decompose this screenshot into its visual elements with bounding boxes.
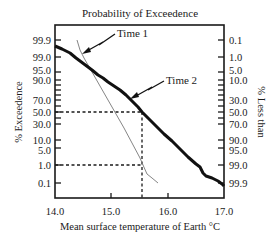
svg-text:99.0: 99.0 [229, 160, 247, 171]
x-tick-labels: 14.0 15.0 16.0 17.0 [46, 206, 233, 217]
svg-text:30.0: 30.0 [33, 119, 51, 130]
svg-text:10.0: 10.0 [229, 75, 247, 86]
svg-text:15.0: 15.0 [102, 206, 120, 217]
svg-text:99.9: 99.9 [229, 178, 247, 189]
time1-annotation-arrow [82, 34, 115, 54]
right-y-axis-label: % Less than [256, 86, 267, 138]
svg-text:0.1: 0.1 [38, 178, 51, 189]
svg-text:14.0: 14.0 [46, 206, 64, 217]
reference-lines [55, 112, 142, 198]
right-y-tick-labels: 0.1 1.0 5.0 10.0 30.0 50.0 70.0 90.0 95.… [229, 35, 247, 189]
svg-text:17.0: 17.0 [215, 206, 233, 217]
svg-text:99.0: 99.0 [33, 52, 51, 63]
svg-text:1.0: 1.0 [38, 160, 51, 171]
svg-text:0.1: 0.1 [229, 35, 242, 46]
svg-text:70.0: 70.0 [33, 95, 51, 106]
time2-label: Time 2 [166, 74, 197, 86]
time1-label: Time 1 [117, 27, 148, 39]
exceedence-chart: Probability of Exceedence [0, 0, 272, 245]
svg-text:90.0: 90.0 [33, 75, 51, 86]
svg-text:30.0: 30.0 [229, 95, 247, 106]
svg-text:50.0: 50.0 [229, 107, 247, 118]
svg-text:70.0: 70.0 [229, 119, 247, 130]
time2-annotation-arrow [130, 81, 164, 99]
svg-text:16.0: 16.0 [159, 206, 177, 217]
chart-title: Probability of Exceedence [82, 7, 198, 19]
left-y-axis-label: % Exceedence [13, 81, 24, 143]
left-y-tick-labels: 99.9 99.0 95.0 90.0 70.0 50.0 30.0 10.0 … [33, 35, 51, 189]
svg-text:95.0: 95.0 [229, 145, 247, 156]
svg-text:50.0: 50.0 [33, 107, 51, 118]
svg-text:5.0: 5.0 [38, 145, 51, 156]
right-y-ticks [218, 40, 224, 183]
x-axis-label: Mean surface temperature of Earth °C [60, 221, 220, 232]
svg-text:99.9: 99.9 [33, 35, 51, 46]
svg-text:1.0: 1.0 [229, 52, 242, 63]
